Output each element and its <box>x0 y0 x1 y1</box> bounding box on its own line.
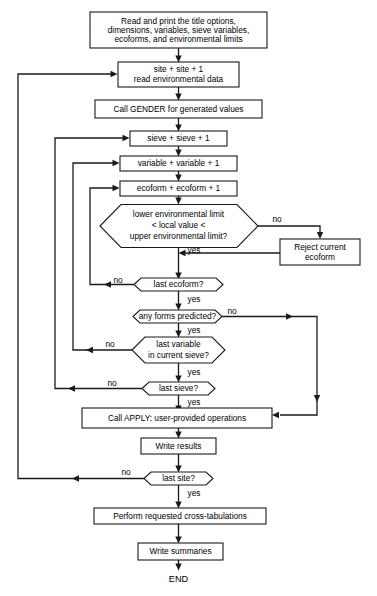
arrowhead-lastvariable-no-into-variable <box>113 160 120 166</box>
arrowhead-anyforms-no-down <box>314 395 320 402</box>
edge-label-lastvariable-yes: yes <box>188 367 201 377</box>
node-env-limit-check[interactable]: lower environmental limit < local value … <box>100 205 258 248</box>
node-last-site-line-0: last site? <box>162 473 195 483</box>
node-env-limit-check-line-0: lower environmental limit <box>133 209 225 219</box>
edge-label-lastsite-yes: yes <box>188 488 201 498</box>
connector-lines <box>18 48 323 571</box>
edge-label-lastecoform-yes: yes <box>188 294 201 304</box>
node-reject-ecoform-line-0: Reject current <box>294 242 346 252</box>
arrowhead-lastsite-no <box>72 475 79 481</box>
arrowhead-ecoform-to-envcheck <box>175 198 181 205</box>
arrowhead-envcheck-no-to-reject <box>317 232 323 239</box>
edge-label-lastvariable-no: no <box>105 339 115 349</box>
node-call-apply-line-0: Call APPLY: user-provided operations <box>108 413 246 423</box>
edge-label-lastsieve-yes: yes <box>188 397 201 407</box>
node-read-print-line-2: ecoforms, and environmental limits <box>114 34 242 44</box>
node-reject-ecoform[interactable]: Reject current ecoform <box>280 239 360 265</box>
node-end-label: END <box>169 574 189 584</box>
node-last-variable-line-1: in current sieve? <box>148 350 209 360</box>
node-call-gender-line-0: Call GENDER for generated values <box>113 104 243 114</box>
edge-label-envcheck-yes: yes <box>188 245 201 255</box>
node-last-sieve-line-0: last sieve? <box>159 383 199 393</box>
edge-label-envcheck-no: no <box>272 214 282 224</box>
arrowhead-lastsieve-no-into-sieve <box>123 135 130 141</box>
node-end: END <box>169 574 189 584</box>
edge-lastsieve-no-loop <box>55 138 142 389</box>
arrowhead-reject-to-trunk <box>179 250 186 256</box>
arrowhead-lastecoform-no-into-ecoform <box>113 185 120 191</box>
node-site-increment-line-0: site + site + 1 <box>154 64 204 74</box>
node-variable-increment[interactable]: variable + variable + 1 <box>120 156 237 171</box>
node-ecoform-increment[interactable]: ecoform + ecoform + 1 <box>120 181 237 196</box>
node-call-gender[interactable]: Call GENDER for generated values <box>95 100 262 118</box>
arrowhead-sieve-to-variable <box>175 150 181 157</box>
edge-envcheck-no-to-reject <box>258 226 320 234</box>
edge-label-anyforms-no: no <box>227 306 237 316</box>
node-site-increment[interactable]: site + site + 1 read environmental data <box>118 62 239 87</box>
arrowhead-lastecoform-no <box>104 281 111 287</box>
edge-label-anyforms-yes: yes <box>188 325 201 335</box>
arrowhead-gender-to-sieve <box>175 125 181 132</box>
node-cross-tabulations-line-0: Perform requested cross-tabulations <box>113 511 247 521</box>
node-sieve-increment-line-0: sieve + sieve + 1 <box>147 133 210 143</box>
arrowhead-anyforms-no-mid <box>286 313 293 319</box>
node-last-ecoform[interactable]: last ecoform? <box>134 278 223 291</box>
flowchart-canvas: Read and print the title options, dimens… <box>0 0 377 596</box>
arrowhead-anyforms-no-into-apply <box>272 412 279 418</box>
node-env-limit-check-line-1: < local value < <box>152 220 206 230</box>
arrowhead-variable-to-ecoform <box>175 175 181 182</box>
arrowhead-lastsieve-no <box>68 385 75 391</box>
node-env-limit-check-line-2: upper environmental limit? <box>130 231 228 241</box>
arrowhead-summaries-to-end <box>175 564 181 571</box>
node-write-results[interactable]: Write results <box>141 438 216 454</box>
node-last-sieve[interactable]: last sieve? <box>142 382 215 395</box>
node-last-ecoform-line-0: last ecoform? <box>154 279 204 289</box>
edge-label-lastsieve-no: no <box>107 378 117 388</box>
node-ecoform-increment-line-0: ecoform + ecoform + 1 <box>137 183 221 193</box>
node-any-forms-predicted-line-0: any forms predicted? <box>139 311 217 321</box>
arrowhead-lastsite-no-into-site <box>111 71 118 77</box>
node-sieve-increment[interactable]: sieve + sieve + 1 <box>130 131 227 146</box>
arrowhead-lastvariable-no <box>86 347 93 353</box>
node-call-apply[interactable]: Call APPLY: user-provided operations <box>82 408 272 428</box>
node-write-results-line-0: Write results <box>156 441 202 451</box>
node-cross-tabulations[interactable]: Perform requested cross-tabulations <box>94 508 266 524</box>
arrowhead-site-to-gender <box>175 94 181 101</box>
node-reject-ecoform-line-1: ecoform <box>305 252 335 262</box>
node-write-summaries[interactable]: Write summaries <box>138 543 223 560</box>
node-read-print[interactable]: Read and print the title options, dimens… <box>90 12 267 48</box>
edge-label-lastecoform-no: no <box>113 275 123 285</box>
node-write-summaries-line-0: Write summaries <box>149 546 211 556</box>
node-site-increment-line-1: read environmental data <box>134 74 224 84</box>
node-last-site[interactable]: last site? <box>144 472 213 485</box>
node-last-variable-line-0: last variable <box>156 339 201 349</box>
edge-label-lastsite-no: no <box>121 467 131 477</box>
node-last-variable[interactable]: last variable in current sieve? <box>132 337 225 363</box>
edge-anyforms-no-to-apply <box>222 317 317 416</box>
node-variable-increment-line-0: variable + variable + 1 <box>138 158 220 168</box>
flowchart-svg: Read and print the title options, dimens… <box>0 0 377 596</box>
node-any-forms-predicted[interactable]: any forms predicted? <box>133 310 222 323</box>
